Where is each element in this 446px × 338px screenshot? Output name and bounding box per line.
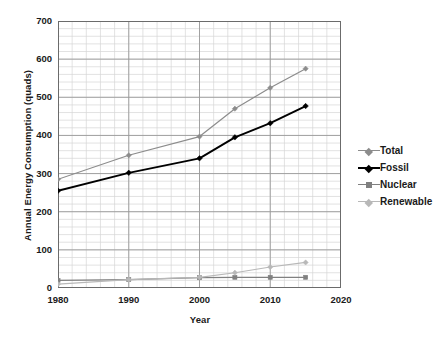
- legend-label: Fossil: [380, 162, 409, 174]
- x-tick-2020: 2020: [321, 294, 361, 305]
- series-fossil: [58, 103, 308, 193]
- y-tick-300: 300: [18, 168, 52, 179]
- data-series-layer: [58, 66, 308, 287]
- x-axis-title: Year: [170, 314, 230, 325]
- plot-area: [58, 21, 341, 288]
- chart-legend: TotalFossilNuclearRenewable: [358, 143, 444, 211]
- legend-marker-diamond-icon: [358, 145, 380, 157]
- y-tick-400: 400: [18, 129, 52, 140]
- legend-label: Nuclear: [380, 179, 417, 191]
- x-tick-2000: 2000: [180, 294, 220, 305]
- legend-marker-diamond-icon: [358, 196, 380, 208]
- legend-label: Total: [380, 145, 403, 157]
- x-tick-1990: 1990: [109, 294, 149, 305]
- y-tick-100: 100: [18, 244, 52, 255]
- y-tick-200: 200: [18, 206, 52, 217]
- y-axis-title: Annual Energy Consumption (quads): [22, 41, 33, 271]
- x-tick-2010: 2010: [250, 294, 290, 305]
- legend-label: Renewable: [380, 196, 432, 208]
- legend-marker-diamond-icon: [358, 162, 380, 174]
- y-tick-600: 600: [18, 53, 52, 64]
- y-tick-0: 0: [18, 282, 52, 293]
- x-tick-1980: 1980: [38, 294, 78, 305]
- legend-marker-square-icon: [358, 179, 380, 191]
- legend-item-fossil[interactable]: Fossil: [358, 160, 444, 176]
- y-tick-500: 500: [18, 91, 52, 102]
- y-tick-700: 700: [18, 15, 52, 26]
- legend-item-nuclear[interactable]: Nuclear: [358, 177, 444, 193]
- series-renewable: [58, 260, 308, 287]
- energy-consumption-line-chart: Annual Energy Consumption (quads) Year 0…: [0, 0, 446, 338]
- legend-item-total[interactable]: Total: [358, 143, 444, 159]
- legend-item-renewable[interactable]: Renewable: [358, 194, 444, 210]
